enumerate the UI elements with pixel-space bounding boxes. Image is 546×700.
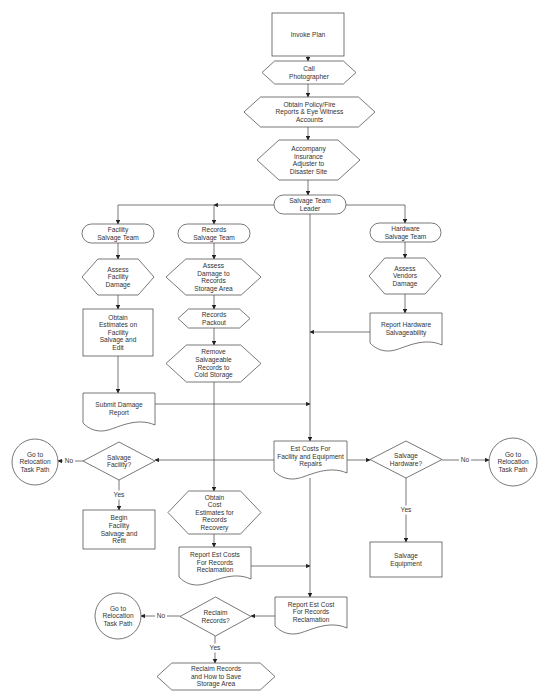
node-records-salvage-team[interactable]: RecordsSalvage Team bbox=[178, 224, 250, 243]
node-label: Cost bbox=[208, 501, 222, 508]
node-begin-facility-salvage[interactable]: BeginFacilitySalvage andRefit bbox=[83, 510, 155, 549]
node-label: For Records bbox=[293, 608, 330, 615]
edge-label-no: No bbox=[157, 612, 166, 619]
node-label: Task Path bbox=[21, 466, 50, 473]
node-label: Relocation bbox=[19, 458, 50, 465]
node-label: Go to bbox=[505, 451, 521, 458]
node-salvage-facility-decision[interactable]: SalvageFacility? bbox=[83, 442, 155, 480]
node-label: Equipment bbox=[390, 560, 422, 568]
node-label: Go to bbox=[110, 605, 126, 612]
node-label: Go to bbox=[27, 451, 43, 458]
node-assess-records-damage[interactable]: AssessDamage toRecordsStorage Area bbox=[166, 259, 261, 295]
node-label: Hardware? bbox=[390, 460, 423, 467]
node-salvage-team-leader[interactable]: Salvage TeamLeader bbox=[274, 195, 346, 214]
node-label: Obtain bbox=[205, 494, 225, 501]
node-relocation-left[interactable]: Go toRelocationTask Path bbox=[12, 439, 58, 485]
node-label: Records bbox=[201, 277, 226, 284]
node-label: Salvageability bbox=[386, 329, 427, 337]
node-hardware-salvage-team[interactable]: HardwareSalvage Team bbox=[370, 223, 441, 242]
node-label: Vendors bbox=[393, 272, 418, 279]
node-label: Reclamation bbox=[197, 566, 234, 573]
node-facility-salvage-team[interactable]: FacilitySalvage Team bbox=[82, 224, 154, 243]
node-label: Hardware bbox=[391, 225, 420, 232]
node-label: Obtain bbox=[108, 314, 128, 321]
node-label: Estimates for bbox=[195, 509, 234, 516]
node-label: Reclaim bbox=[204, 609, 228, 616]
node-label: Salvage Team bbox=[97, 234, 139, 242]
node-label: Damage bbox=[106, 281, 131, 289]
node-salvage-equipment[interactable]: SalvageEquipment bbox=[370, 542, 442, 577]
edge-label-yes: Yes bbox=[210, 644, 221, 651]
node-obtain-estimates-facility[interactable]: ObtainEstimates onFacilitySalvage andEdi… bbox=[83, 309, 153, 356]
node-accompany-adjuster[interactable]: AccompanyInsuranceAdjuster toDisaster Si… bbox=[257, 140, 360, 180]
node-label: and How to Save bbox=[191, 673, 242, 680]
node-assess-facility-damage[interactable]: AssessFacilityDamage bbox=[82, 259, 154, 295]
node-label: Facility? bbox=[107, 461, 132, 469]
node-label: Invoke Plan bbox=[291, 31, 326, 38]
node-label: Est Costs For bbox=[291, 445, 332, 452]
node-label: Storage Area bbox=[197, 680, 236, 688]
node-label: Relocation bbox=[497, 458, 528, 465]
node-label: Report bbox=[109, 409, 129, 417]
edge-label-no: No bbox=[65, 457, 74, 464]
node-label: Call bbox=[303, 65, 315, 72]
node-label: Salvage Team bbox=[385, 233, 427, 241]
node-remove-salvageable[interactable]: RemoveSalvageableRecords toCold Storage bbox=[166, 345, 261, 382]
node-label: Packout bbox=[202, 319, 226, 326]
node-call-photographer[interactable]: CallPhotographer bbox=[262, 61, 356, 84]
node-obtain-cost-records[interactable]: ObtainCostEstimates forRecordsRecovery bbox=[168, 491, 261, 534]
node-label: Records bbox=[202, 311, 227, 318]
node-label: Reclaim Records bbox=[191, 665, 242, 672]
node-label: Edit bbox=[112, 344, 124, 351]
node-label: Storage Area bbox=[194, 285, 233, 293]
connector-arrow bbox=[346, 205, 405, 223]
node-records-packout[interactable]: RecordsPackout bbox=[178, 309, 250, 328]
node-reclaim-records-decision[interactable]: ReclaimRecords? bbox=[180, 597, 251, 636]
node-label: Task Path bbox=[104, 620, 133, 627]
node-label: Task Path bbox=[499, 466, 528, 473]
node-label: Damage bbox=[393, 280, 418, 288]
node-invoke-plan[interactable]: Invoke Plan bbox=[272, 13, 344, 56]
node-label: Records bbox=[202, 226, 227, 233]
node-est-costs-facility[interactable]: Est Costs ForFacility and EquipmentRepai… bbox=[274, 441, 347, 479]
node-label: Refit bbox=[112, 537, 126, 544]
node-label: Assess bbox=[107, 266, 129, 273]
node-label: Records bbox=[202, 516, 227, 523]
node-obtain-policy[interactable]: Obtain Policy/FireReports & Eye WitnessA… bbox=[244, 97, 375, 127]
node-relocation-bottom[interactable]: Go toRelocationTask Path bbox=[95, 593, 141, 639]
node-label: Repairs bbox=[299, 460, 322, 468]
node-label: Disaster Site bbox=[290, 168, 328, 175]
node-assess-vendors-damage[interactable]: AssessVendorsDamage bbox=[369, 258, 441, 294]
node-label: Relocation bbox=[102, 612, 133, 619]
flowchart-nodes: Invoke PlanCallPhotographerObtain Policy… bbox=[12, 13, 537, 690]
node-report-hardware[interactable]: Report HardwareSalvageability bbox=[370, 313, 442, 351]
node-label: Records to bbox=[198, 364, 230, 371]
node-label: Assess bbox=[394, 265, 416, 272]
node-label: Estimates on bbox=[99, 321, 137, 328]
edge-label-yes: Yes bbox=[114, 491, 125, 498]
node-report-est-costs-records[interactable]: Report Est CostsFor RecordsReclamation bbox=[179, 547, 251, 585]
node-label: Reclamation bbox=[293, 616, 330, 623]
node-label: Salvage Team bbox=[193, 234, 235, 242]
node-label: Cold Storage bbox=[194, 371, 233, 379]
node-submit-damage-report[interactable]: Submit DamageReport bbox=[83, 393, 155, 431]
connector-arrow bbox=[118, 205, 214, 224]
node-label: Remove bbox=[201, 348, 226, 355]
edge-label-no: No bbox=[461, 456, 470, 463]
node-report-est-cost-final[interactable]: Report Est CostFor RecordsReclamation bbox=[275, 597, 347, 634]
node-label: Records? bbox=[201, 617, 230, 624]
node-label: Leader bbox=[300, 205, 321, 212]
node-label: Recovery bbox=[201, 524, 230, 532]
node-reclaim-records-save[interactable]: Reclaim Recordsand How to SaveStorage Ar… bbox=[157, 663, 275, 690]
node-label: For Records bbox=[197, 559, 234, 566]
node-relocation-right[interactable]: Go toRelocationTask Path bbox=[489, 438, 537, 486]
node-salvage-hardware-decision[interactable]: SalvageHardware? bbox=[370, 441, 442, 478]
node-label: Accounts bbox=[296, 116, 324, 123]
node-label: Assess bbox=[203, 262, 225, 269]
node-label: Photographer bbox=[289, 73, 330, 81]
flowchart-canvas: Invoke PlanCallPhotographerObtain Policy… bbox=[0, 0, 546, 700]
node-label: Insurance bbox=[294, 153, 323, 160]
edge-label-yes: Yes bbox=[401, 506, 412, 513]
